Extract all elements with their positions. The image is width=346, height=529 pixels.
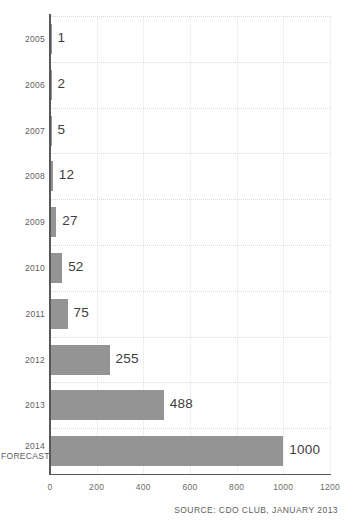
horizontal-gridline [50,428,330,429]
category-label-line: 2012 [1,355,45,365]
bar [50,253,62,283]
bar-value-label: 12 [59,167,74,182]
x-axis-tick-label: 800 [229,482,244,492]
horizontal-gridline [50,153,330,154]
x-axis-tick-label: 200 [89,482,104,492]
category-label: 2013 [1,400,45,410]
category-axis-labels: 2005200620072008200920102011201220132014… [0,16,45,474]
category-label-line: 2014 [1,441,45,451]
category-label: 2010 [1,263,45,273]
horizontal-gridline [50,245,330,246]
bar [50,207,56,237]
category-label: 2008 [1,171,45,181]
y-axis-line [49,14,51,475]
x-axis-tick-label: 400 [136,482,151,492]
x-axis-tick-label: 600 [182,482,197,492]
category-label-line: 2007 [1,126,45,136]
category-label-line: 2006 [1,80,45,90]
bar [50,390,164,420]
bar-value-label: 52 [68,259,83,274]
bar [50,345,110,375]
bar-value-label: 27 [62,213,77,228]
bar-value-label: 1000 [289,442,320,457]
horizontal-gridline [50,199,330,200]
category-label: 2011 [1,309,45,319]
category-label-line: 2009 [1,217,45,227]
bar [50,436,283,466]
category-label: 2006 [1,80,45,90]
horizontal-gridline [50,62,330,63]
category-label: 2007 [1,126,45,136]
category-label-line: 2011 [1,309,45,319]
bar-value-label: 488 [170,396,193,411]
bar-value-label: 75 [74,305,89,320]
bar-chart: 125122752752554881000 200520062007200820… [0,0,346,529]
bar-value-label: 5 [58,122,66,137]
category-label-line: 2013 [1,400,45,410]
plot-area: 125122752752554881000 [50,16,330,474]
x-axis-tick-labels: 020040060080010001200 [50,482,330,496]
horizontal-gridline [50,382,330,383]
x-axis-tick-label: 1200 [320,482,340,492]
category-label: 2012 [1,355,45,365]
source-note: SOURCE: CDO CLUB, JANUARY 2013 [174,505,338,515]
category-label-line: 2005 [1,34,45,44]
bar [50,299,68,329]
x-axis-tick-label: 1000 [273,482,293,492]
category-label-line: FORECAST [1,451,45,461]
bar-value-label: 1 [58,30,66,45]
horizontal-gridline [50,291,330,292]
bar-value-label: 255 [116,351,139,366]
category-label-line: 2010 [1,263,45,273]
category-label: 2005 [1,34,45,44]
horizontal-gridline [50,16,330,17]
vertical-gridline [330,16,331,474]
category-label-line: 2008 [1,171,45,181]
horizontal-gridline [50,337,330,338]
x-axis-line [49,474,331,475]
bar-value-label: 2 [58,76,66,91]
x-axis-tick-label: 0 [47,482,52,492]
horizontal-gridline [50,108,330,109]
category-label: 2009 [1,217,45,227]
category-label: 2014FORECAST [1,441,45,461]
